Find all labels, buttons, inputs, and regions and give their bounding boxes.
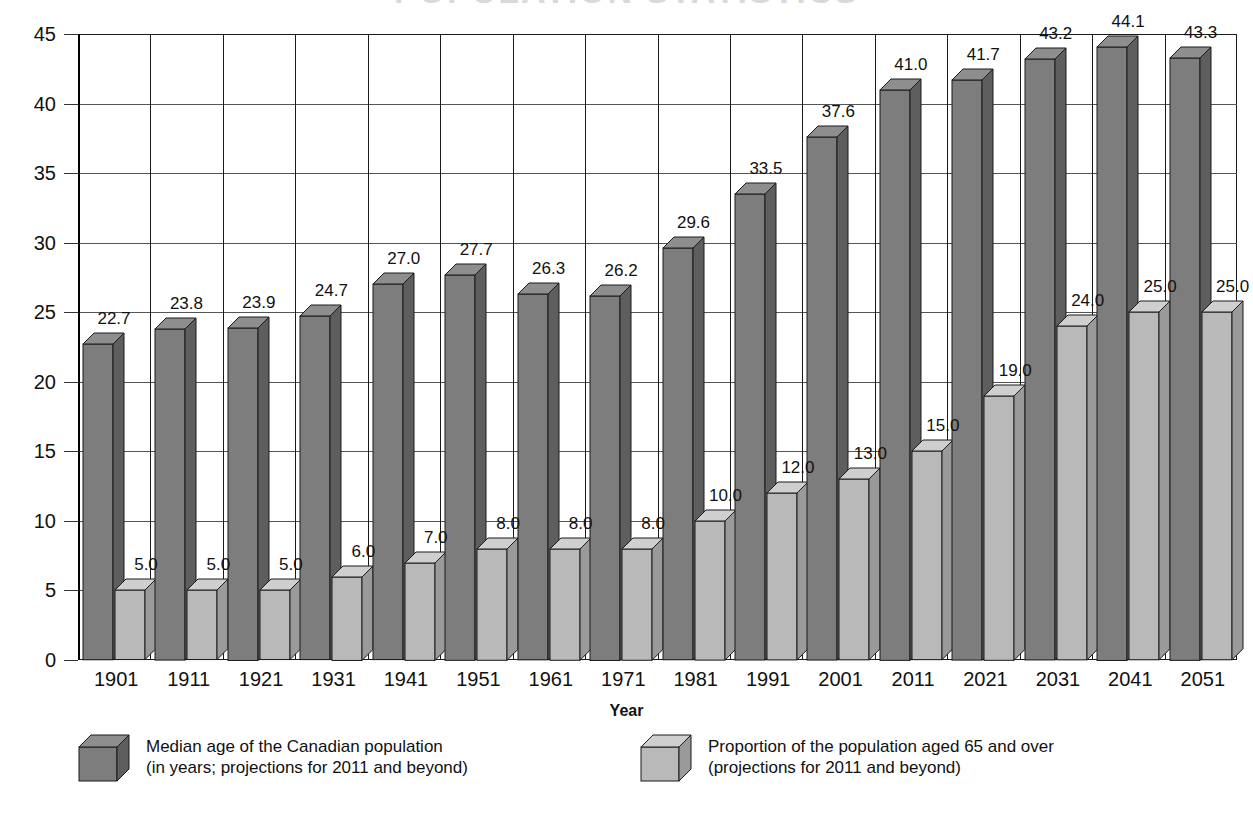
bar-median-age-2021: [951, 80, 981, 660]
bar-3d-shape: [1201, 300, 1244, 661]
x-axis-tick-label: 1931: [311, 668, 356, 691]
value-label-median-age: 43.3: [1184, 23, 1217, 43]
bar-prop-65plus-2021: [983, 396, 1013, 660]
bar-median-age-2041: [1096, 47, 1126, 660]
value-label-prop-65plus: 24.0: [1071, 291, 1104, 311]
bar-median-age-1921: [227, 328, 257, 660]
y-axis-tick-mark: [64, 312, 78, 313]
value-label-median-age: 27.0: [387, 249, 420, 269]
x-axis-tick-label: 1991: [746, 668, 791, 691]
bar-prop-65plus-2011: [911, 451, 941, 660]
bar-3d-shape: [911, 439, 954, 661]
value-label-median-age: 37.6: [822, 102, 855, 122]
chart-legend: Median age of the Canadian population (i…: [0, 730, 1253, 800]
value-label-median-age: 43.2: [1039, 24, 1072, 44]
bar-median-age-1981: [662, 248, 692, 660]
bar-3d-shape: [476, 537, 519, 661]
bar-prop-65plus-1981: [694, 521, 724, 660]
bar-prop-65plus-2041: [1128, 312, 1158, 660]
bar-median-age-2031: [1024, 59, 1054, 660]
value-label-prop-65plus: 6.0: [351, 542, 375, 562]
bar-prop-65plus-2051: [1201, 312, 1231, 660]
value-label-prop-65plus: 5.0: [207, 555, 231, 575]
bar-prop-65plus-1991: [766, 493, 796, 660]
y-axis-tick-mark: [64, 451, 78, 452]
y-axis-tick-label: 35: [34, 162, 56, 185]
y-axis-tick-label: 40: [34, 92, 56, 115]
bar-prop-65plus-2031: [1056, 326, 1086, 660]
x-axis-tick-label: 2041: [1108, 668, 1153, 691]
bar-prop-65plus-2001: [838, 479, 868, 660]
bar-median-age-1971: [589, 296, 619, 660]
value-label-median-age: 26.2: [605, 261, 638, 281]
bars-layer: [78, 34, 1237, 660]
value-label-prop-65plus: 15.0: [926, 416, 959, 436]
y-axis-tick-mark: [64, 590, 78, 591]
legend-item-proportion-65-plus-series: Proportion of the population aged 65 and…: [640, 730, 1054, 780]
value-label-prop-65plus: 19.0: [999, 361, 1032, 381]
x-axis-tick-label: 1951: [456, 668, 501, 691]
value-label-prop-65plus: 13.0: [854, 444, 887, 464]
legend-label: Proportion of the population aged 65 and…: [708, 736, 1054, 779]
legend-swatch-cube-icon: [78, 734, 130, 780]
x-axis-labels: 1901191119211931194119511961197119811991…: [78, 668, 1237, 698]
bar-3d-shape: [186, 578, 229, 661]
bar-3d-shape: [694, 509, 737, 661]
x-axis-tick-label: 1961: [529, 668, 574, 691]
bar-prop-65plus-1951: [476, 549, 506, 660]
bar-prop-65plus-1901: [114, 590, 144, 660]
bar-3d-shape: [766, 481, 809, 661]
x-axis-tick-label: 1971: [601, 668, 646, 691]
y-axis-tick-mark: [64, 521, 78, 522]
bar-3d-shape: [331, 565, 374, 661]
bar-prop-65plus-1911: [186, 590, 216, 660]
value-label-median-age: 23.9: [242, 293, 275, 313]
x-axis-tick-label: 1911: [167, 668, 210, 691]
y-axis-tick-mark: [64, 173, 78, 174]
x-axis-tick-label: 1981: [673, 668, 718, 691]
clipped-page-title-text: POPULATION STATISTICS: [0, 0, 1253, 8]
value-label-median-age: 24.7: [315, 281, 348, 301]
clipped-page-title: POPULATION STATISTICS: [0, 0, 1253, 10]
y-axis-tick-label: 20: [34, 370, 56, 393]
x-axis-tick-label: 1941: [384, 668, 429, 691]
y-axis-tick-mark: [64, 104, 78, 105]
y-axis-tick-mark: [64, 34, 78, 35]
bar-3d-shape: [621, 537, 664, 661]
y-axis: 051015202530354045: [0, 0, 78, 660]
x-axis-tick-label: 1901: [94, 668, 139, 691]
y-axis-tick-mark: [64, 660, 78, 661]
bar-prop-65plus-1921: [259, 590, 289, 660]
bar-3d-shape: [114, 578, 157, 661]
bar-median-age-1931: [299, 316, 329, 660]
bar-prop-65plus-1941: [404, 563, 434, 660]
bar-3d-shape: [1128, 300, 1171, 661]
bar-median-age-1991: [734, 194, 764, 660]
x-axis-tick-label: 1921: [239, 668, 284, 691]
value-label-prop-65plus: 8.0: [496, 514, 520, 534]
x-axis-title: Year: [0, 702, 1253, 720]
value-label-prop-65plus: 8.0: [641, 514, 665, 534]
x-axis-tick-label: 2001: [818, 668, 863, 691]
legend-item-median-age-series: Median age of the Canadian population (i…: [78, 730, 468, 780]
value-label-median-age: 22.7: [97, 309, 130, 329]
bar-3d-shape: [1056, 314, 1099, 661]
y-axis-tick-label: 10: [34, 509, 56, 532]
bar-prop-65plus-1931: [331, 577, 361, 660]
value-label-median-age: 41.0: [894, 55, 927, 75]
value-label-prop-65plus: 25.0: [1216, 277, 1249, 297]
value-label-prop-65plus: 5.0: [134, 555, 158, 575]
value-label-prop-65plus: 10.0: [709, 486, 742, 506]
bar-median-age-2011: [879, 90, 909, 660]
y-axis-tick-mark: [64, 382, 78, 383]
value-label-median-age: 29.6: [677, 213, 710, 233]
bar-median-age-2051: [1169, 58, 1199, 660]
bar-median-age-1961: [517, 294, 547, 660]
x-axis-tick-label: 2031: [1036, 668, 1081, 691]
value-label-prop-65plus: 8.0: [569, 514, 593, 534]
bar-prop-65plus-1971: [621, 549, 651, 660]
bar-median-age-1901: [82, 344, 112, 660]
value-label-prop-65plus: 12.0: [781, 458, 814, 478]
y-axis-tick-label: 15: [34, 440, 56, 463]
value-label-median-age: 41.7: [967, 45, 1000, 65]
